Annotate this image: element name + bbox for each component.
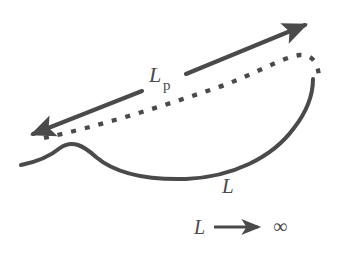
polymer-persistence-length-diagram: L p L L ∞ — [0, 0, 346, 253]
limit-value-label: ∞ — [273, 215, 287, 237]
persistence-length-label-base: L — [148, 62, 161, 87]
persistence-length-label: L p — [148, 62, 171, 93]
persistence-arrow-right-segment — [186, 25, 305, 74]
end-to-end-dashed-path — [44, 55, 319, 138]
limit-expression: L ∞ — [193, 215, 287, 238]
polymer-contour-solid-curve — [21, 79, 313, 179]
persistence-length-label-subscript: p — [163, 77, 171, 93]
contour-length-label: L — [221, 174, 234, 198]
limit-variable-label: L — [193, 216, 205, 238]
figure-canvas: L p L L ∞ — [0, 0, 346, 253]
